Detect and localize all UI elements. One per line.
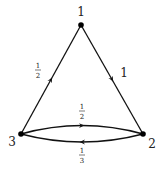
node-label-2: 2 <box>148 137 156 151</box>
edge-weight-1-2: 1 <box>120 66 128 80</box>
node-label-1: 1 <box>77 5 85 19</box>
graph-diagram: 1 2 3 1 1 2 1 2 1 3 <box>0 0 163 171</box>
svg-text:2: 2 <box>80 113 84 121</box>
svg-text:3: 3 <box>80 157 84 165</box>
edge-weight-3-2: 1 2 <box>79 103 85 121</box>
svg-text:2: 2 <box>36 72 40 80</box>
node-1 <box>78 22 84 28</box>
edge-weight-2-3: 1 3 <box>79 147 85 165</box>
edge-weight-3-1: 1 2 <box>35 62 41 80</box>
edge-1-to-2 <box>81 25 143 134</box>
edge-3-to-1 <box>21 25 81 134</box>
node-3 <box>18 131 24 137</box>
svg-text:1: 1 <box>80 147 84 155</box>
edge-2-to-3 <box>21 134 143 142</box>
edge-3-to-2 <box>21 126 143 135</box>
node-label-3: 3 <box>8 135 16 149</box>
svg-text:1: 1 <box>36 62 40 70</box>
svg-text:1: 1 <box>80 103 84 111</box>
node-2 <box>140 131 146 137</box>
